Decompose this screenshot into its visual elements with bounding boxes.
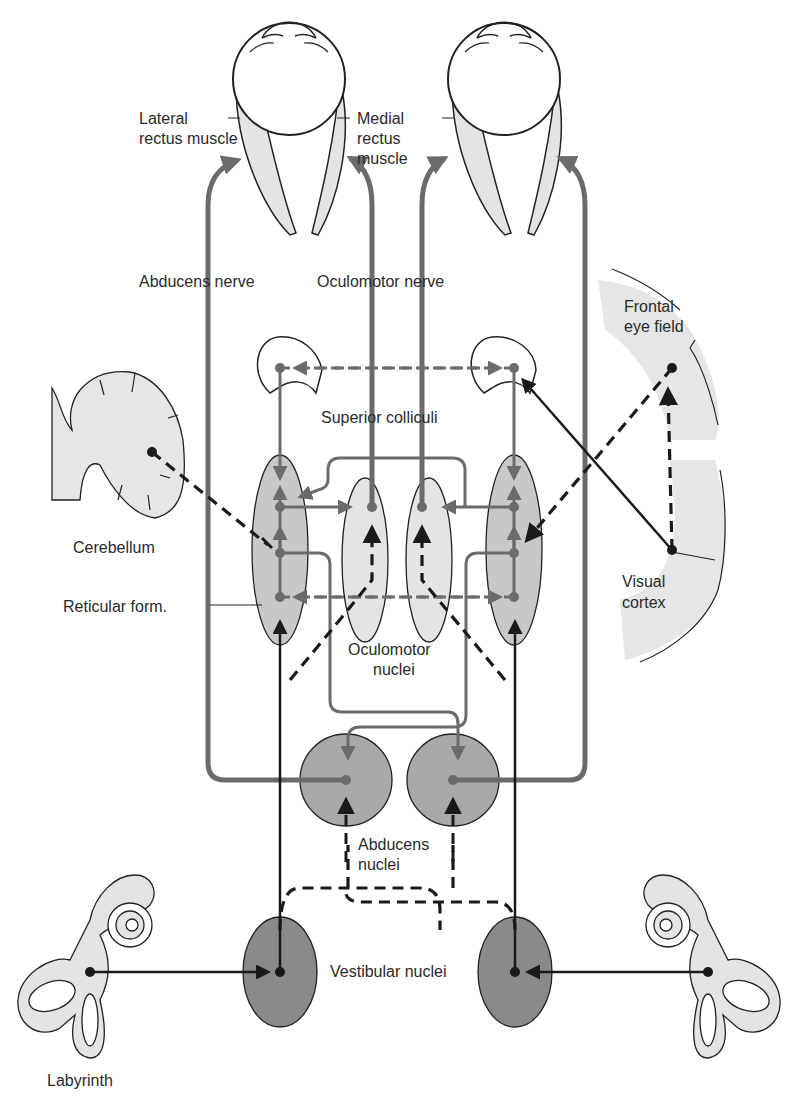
medial-rectus-label-2: rectus [357,129,401,148]
labyrinth-label: Labyrinth [47,1071,113,1090]
frontal-eye-field-label: Frontal [624,297,674,316]
visual-cortex-label: Visual [622,572,665,591]
superior-colliculi-label: Superior colliculi [321,408,438,427]
right-oculomotor-nucleus [406,478,452,642]
left-labyrinth [18,875,154,1058]
superior-colliculi [258,337,536,393]
cerebellum-shape [52,372,184,518]
oculomotor-nerve-label: Oculomotor nerve [317,272,444,291]
right-eye [448,22,561,235]
reticular-formation-label: Reticular form. [63,597,167,616]
left-oculomotor-nucleus [342,478,388,642]
frontal-eye-field-label-2: eye field [624,317,684,336]
right-labyrinth [644,875,780,1058]
lateral-rectus-label-2: rectus muscle [139,129,238,148]
abducens-nuclei-label: Abducens [358,835,429,854]
cerebellum-label: Cerebellum [73,538,155,557]
abducens-nuclei-label-2: nuclei [358,855,400,874]
left-eye [233,22,345,235]
visual-cortex-label-2: cortex [622,593,666,612]
medial-rectus-label: Medial [357,109,404,128]
abducens-nerve-label: Abducens nerve [139,272,255,291]
oculomotor-nuclei-label: Oculomotor [348,640,431,659]
oculomotor-nuclei-label-2: nuclei [373,660,415,679]
lateral-rectus-label: Lateral [139,109,188,128]
medial-rectus-label-3: muscle [357,149,408,168]
vestibular-nuclei-label: Vestibular nuclei [330,962,447,981]
